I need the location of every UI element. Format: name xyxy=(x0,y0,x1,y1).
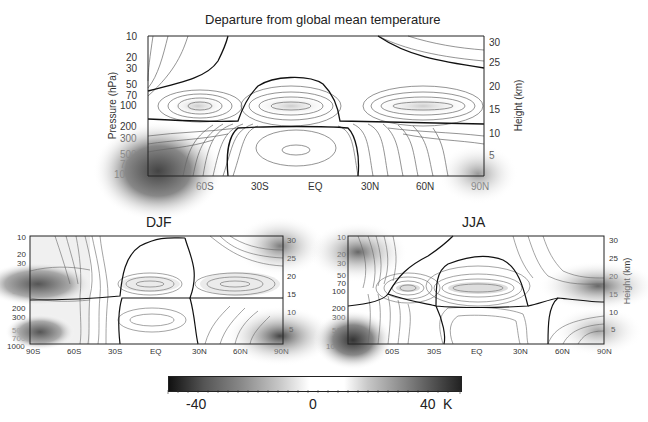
tick-p-10: 10 xyxy=(126,32,137,42)
main-title: Departure from global mean temperature xyxy=(205,12,441,27)
tick-h-30: 30 xyxy=(489,38,500,48)
colorbar-ticks xyxy=(168,390,462,395)
tick-p-30: 30 xyxy=(126,64,137,74)
tick-p-50: 50 xyxy=(126,80,137,90)
tick-h-15: 15 xyxy=(489,105,500,115)
tick-lat-60n: 60N xyxy=(416,182,434,192)
djf-contour-plot xyxy=(30,236,283,344)
jja-tick-lat-eq: EQ xyxy=(471,348,483,356)
tick-lat-eq: EQ xyxy=(308,182,322,192)
colorbar-tick-minus40: -40 xyxy=(186,396,206,412)
tick-p-20: 20 xyxy=(126,53,137,63)
jja-tick-lat-30s: 30S xyxy=(427,348,441,356)
y-axis-label-height: Height (km) xyxy=(513,66,524,146)
djf-tick-p-200: 200 xyxy=(12,305,25,313)
djf-tick-lat-eq: EQ xyxy=(150,348,162,356)
tick-lat-30s: 30S xyxy=(251,182,269,192)
tick-p-100: 100 xyxy=(120,101,137,111)
tick-h-25: 25 xyxy=(489,58,500,68)
main-contour-plot xyxy=(148,36,484,176)
tick-h-20: 20 xyxy=(489,82,500,92)
djf-tick-p-20: 20 xyxy=(17,251,26,259)
djf-tick-lat-60s: 60S xyxy=(67,348,81,356)
djf-tick-lat-30n: 30N xyxy=(192,348,207,356)
djf-tick-lat-30s: 30S xyxy=(108,348,122,356)
colorbar-tick-40: 40 xyxy=(420,396,436,412)
tick-h-10: 10 xyxy=(489,129,500,139)
jja-contour-plot xyxy=(348,236,604,344)
tick-lat-30n: 30N xyxy=(361,182,379,192)
jja-title: JJA xyxy=(462,214,485,230)
djf-tick-h-15: 15 xyxy=(287,291,296,299)
djf-tick-p-10: 10 xyxy=(17,234,26,242)
colorbar-tick-0: 0 xyxy=(309,396,317,412)
jja-tick-p-100: 100 xyxy=(332,288,345,296)
jja-tick-h-30: 30 xyxy=(609,237,618,245)
colorbar-unit: K xyxy=(443,396,452,412)
djf-title: DJF xyxy=(146,214,172,230)
jja-tick-lat-30n: 30N xyxy=(513,348,528,356)
